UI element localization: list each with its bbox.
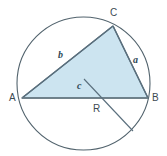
vertex-label-b: B: [152, 93, 159, 103]
inscribed-triangle: [22, 26, 148, 98]
geometry-diagram-svg: [0, 0, 167, 156]
side-label-c: c: [77, 81, 81, 91]
geometry-figure: A B C b a c R: [0, 0, 167, 156]
vertex-label-c: C: [110, 8, 117, 18]
side-label-a: a: [133, 55, 138, 65]
radius-label: R: [93, 104, 100, 114]
side-label-b: b: [58, 50, 63, 60]
vertex-label-a: A: [9, 93, 16, 103]
